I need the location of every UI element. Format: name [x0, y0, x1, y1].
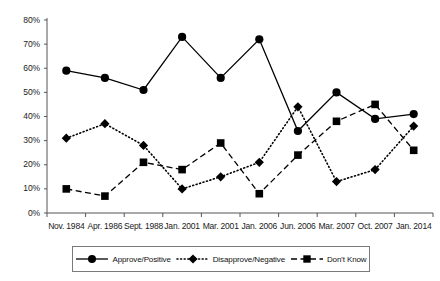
data-point-square — [178, 166, 186, 174]
legend-item[interactable]: Approve/Positive — [75, 253, 170, 265]
data-point-square — [371, 101, 379, 109]
legend-square-icon — [290, 253, 324, 265]
legend-circle-icon — [75, 253, 109, 265]
data-point-diamond — [216, 172, 225, 181]
legend-diamond-icon — [176, 253, 210, 265]
data-point-circle — [332, 88, 340, 96]
legend-item-label: Disapprove/Negative — [213, 255, 285, 264]
data-point-circle — [101, 74, 109, 82]
data-point-circle — [217, 74, 225, 82]
x-axis-tick-label: Jan. 2014 — [388, 221, 439, 231]
y-axis-tick-label: 60% — [10, 63, 40, 73]
series-3 — [63, 101, 418, 200]
data-point-square — [294, 151, 302, 159]
data-point-diamond — [62, 134, 71, 143]
data-point-square — [63, 185, 71, 193]
series-line — [66, 104, 413, 196]
y-axis-tick-label: 80% — [10, 15, 40, 25]
y-axis-tick-label: 0% — [10, 208, 40, 218]
y-axis-tick-label: 30% — [10, 135, 40, 145]
y-axis-tick-label: 10% — [10, 183, 40, 193]
legend-item[interactable]: Don't Know — [290, 253, 367, 265]
chart-plot-area — [0, 0, 440, 281]
series-1 — [62, 33, 418, 135]
legend-item-label: Don't Know — [327, 255, 367, 264]
legend-item[interactable]: Disapprove/Negative — [176, 253, 285, 265]
data-point-diamond — [255, 158, 264, 167]
y-axis-tick-label: 70% — [10, 39, 40, 49]
data-point-circle — [178, 33, 186, 41]
data-point-square — [217, 139, 225, 147]
data-point-circle — [255, 35, 263, 43]
series-line — [66, 107, 413, 189]
chart-legend: Approve/PositiveDisapprove/NegativeDon't… — [72, 246, 370, 272]
data-point-diamond — [178, 184, 187, 193]
data-point-square — [333, 118, 341, 126]
data-point-circle — [139, 86, 147, 94]
y-axis-tick-label: 20% — [10, 159, 40, 169]
data-point-square — [101, 192, 109, 200]
series-line — [66, 37, 413, 131]
line-chart: 0%10%20%30%40%50%60%70%80% Nov. 1984Apr.… — [0, 0, 440, 281]
data-point-circle — [294, 127, 302, 135]
y-axis-tick-label: 50% — [10, 87, 40, 97]
data-point-circle — [371, 115, 379, 123]
data-point-circle — [410, 110, 418, 118]
y-axis-tick-label: 40% — [10, 111, 40, 121]
data-point-square — [140, 159, 148, 167]
data-point-diamond — [100, 119, 109, 128]
data-point-circle — [62, 67, 70, 75]
data-point-square — [256, 190, 264, 198]
series-2 — [62, 102, 419, 193]
data-point-square — [410, 147, 418, 155]
data-point-diamond — [332, 177, 341, 186]
legend-item-label: Approve/Positive — [112, 255, 170, 264]
